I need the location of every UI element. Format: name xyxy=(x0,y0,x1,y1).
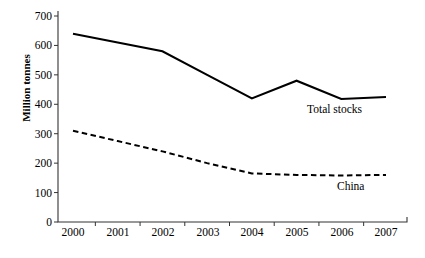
series-line-total-stocks xyxy=(73,34,386,99)
series-annotation-china: China xyxy=(337,181,364,193)
axis-lines xyxy=(54,11,407,226)
plot-area xyxy=(0,0,425,258)
chart-figure: Million tonnes 700 600 500 400 300 200 1… xyxy=(0,0,425,258)
axis-tick-marks xyxy=(54,16,364,226)
series-line-china xyxy=(73,131,386,176)
series-annotation-total-stocks: Total stocks xyxy=(307,104,362,116)
